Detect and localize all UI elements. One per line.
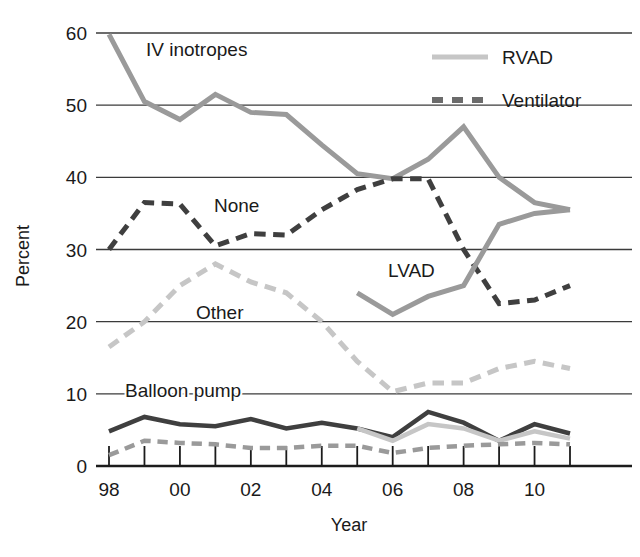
annotation-other: Other: [196, 302, 244, 323]
x-axis-ticks: [109, 446, 570, 466]
series-annotations: IV inotropesNoneOtherBalloon pumpLVAD: [125, 39, 435, 401]
legend-label-ventilator: Ventilator: [502, 90, 582, 111]
y-tick-label-0: 0: [76, 456, 87, 477]
y-axis-tick-labels: 0102030405060: [66, 23, 87, 477]
y-tick-label-40: 40: [66, 167, 87, 188]
series-line-ventilator: [109, 441, 570, 455]
annotation-iv-inotropes: IV inotropes: [146, 39, 247, 60]
series-line-other: [109, 264, 570, 392]
y-tick-label-60: 60: [66, 23, 87, 44]
series-line-iv-inotropes: [109, 34, 570, 209]
y-tick-label-30: 30: [66, 240, 87, 261]
x-tick-label-2010: 10: [524, 479, 545, 500]
x-tick-label-2000: 00: [169, 479, 190, 500]
x-axis-tick-labels: 98000204060810: [98, 479, 545, 500]
chart-legend: RVADVentilator: [432, 47, 582, 111]
chart-container: 0102030405060 98000204060810 IV inotrope…: [0, 0, 640, 557]
x-tick-label-1998: 98: [98, 479, 119, 500]
x-axis-title: Year: [331, 515, 367, 535]
y-tick-label-50: 50: [66, 95, 87, 116]
y-tick-label-10: 10: [66, 384, 87, 405]
x-tick-label-2002: 02: [240, 479, 261, 500]
x-tick-label-2006: 06: [382, 479, 403, 500]
y-axis-title: Percent: [13, 225, 33, 287]
series-line-balloon-pump: [109, 412, 570, 441]
annotation-none: None: [214, 195, 259, 216]
x-tick-label-2004: 04: [311, 479, 333, 500]
series-line-none: [109, 179, 570, 304]
y-tick-label-20: 20: [66, 312, 87, 333]
x-tick-label-2008: 08: [453, 479, 474, 500]
line-chart: 0102030405060 98000204060810 IV inotrope…: [0, 0, 640, 557]
legend-label-rvad: RVAD: [502, 47, 553, 68]
annotation-balloon-pump: Balloon pump: [125, 380, 241, 401]
annotation-lvad: LVAD: [388, 260, 435, 281]
